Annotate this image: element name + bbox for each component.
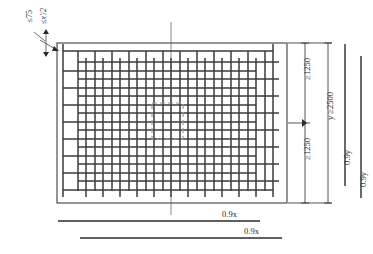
drawing-canvas: ≤75 ≤x'/2 ≥1250 ≥1250 y ≥2500 0.9y 0.9y … bbox=[0, 0, 373, 254]
label-dim-upper: ≥1250 bbox=[303, 58, 312, 80]
label-cover-top: ≤75 bbox=[26, 10, 34, 22]
column-footprint-dashed bbox=[152, 103, 183, 139]
label-bar-0.9y-first: 0.9y bbox=[343, 150, 352, 165]
slab-outline-rectangle bbox=[57, 43, 287, 203]
label-dim-lower: ≥1250 bbox=[303, 138, 312, 160]
label-bar-0.9x-second: 0.9x bbox=[244, 227, 259, 236]
label-bar-0.9x-first: 0.9x bbox=[222, 210, 237, 219]
label-dim-total: y ≥2500 bbox=[326, 92, 335, 120]
drawing-vector-layer bbox=[0, 0, 373, 254]
right-dimension-total bbox=[312, 43, 332, 203]
label-spacing-top: ≤x'/2 bbox=[40, 8, 48, 24]
lower-mesh-layer bbox=[78, 51, 279, 191]
cover-leader-arrows bbox=[34, 29, 59, 57]
label-bar-0.9y-second: 0.9y bbox=[359, 172, 368, 187]
